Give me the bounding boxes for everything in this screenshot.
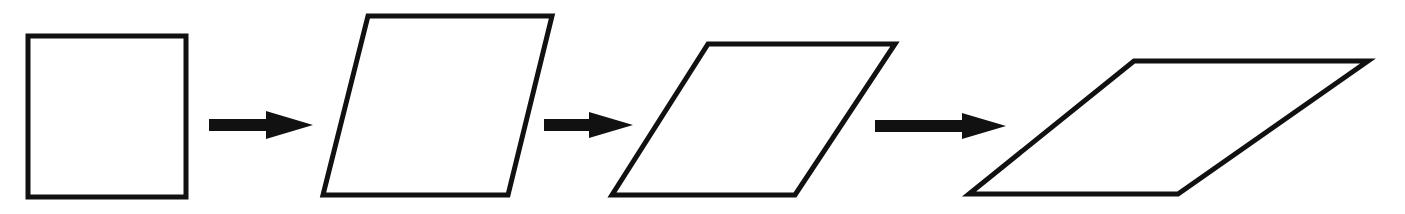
right-arrow-icon (875, 113, 1006, 139)
parallelogram-shape-3 (969, 61, 1368, 194)
shear-transformation-diagram (0, 0, 1405, 214)
right-arrow-icon (544, 112, 633, 138)
parallelogram-shape-2 (612, 44, 895, 195)
parallelogram-shape-1 (323, 16, 552, 195)
right-arrow-icon (209, 111, 313, 139)
square-shape (28, 36, 186, 197)
